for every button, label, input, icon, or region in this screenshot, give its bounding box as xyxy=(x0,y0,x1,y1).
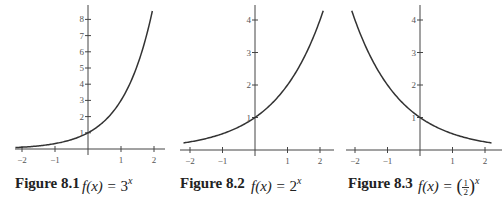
y-tick-label: 4 xyxy=(412,15,417,25)
y-tick-label: 2 xyxy=(412,80,417,90)
formula-prefix: f(x) = xyxy=(418,178,456,194)
x-tick-label: 2 xyxy=(483,156,488,166)
x-tick-label: 1 xyxy=(285,156,290,166)
figure-8-2: −2−1121234 Figure 8.2 f(x) = 2x xyxy=(168,0,336,200)
formula-exponent: x xyxy=(297,175,301,186)
x-tick-label: 2 xyxy=(318,156,323,166)
formula: f(x) = 2x xyxy=(251,175,301,195)
y-tick-label: 3 xyxy=(412,48,417,58)
y-tick-label: 3 xyxy=(247,48,252,58)
x-tick-label: 2 xyxy=(152,155,157,165)
chart-2-pow-x: −2−1121234 xyxy=(168,0,336,175)
y-tick-label: 2 xyxy=(247,80,252,90)
figure-8-3: −2−1121234 Figure 8.3 f(x) = (12)x xyxy=(336,0,504,200)
formula-base: 3 xyxy=(120,178,128,194)
x-tick-label: −2 xyxy=(17,155,27,165)
formula: f(x) = 3x xyxy=(82,175,132,195)
formula-base: 2 xyxy=(289,178,297,194)
figure-label: Figure 8.3 xyxy=(348,175,413,192)
figure-8-1: −2−11212345678 Figure 8.1 f(x) = 3x xyxy=(0,0,168,200)
x-tick-label: −1 xyxy=(383,156,393,166)
formula-exponent: x xyxy=(475,175,479,186)
function-curve xyxy=(352,11,492,143)
y-tick-label: 4 xyxy=(247,15,252,25)
function-curve xyxy=(184,11,324,143)
formula: f(x) = (12)x xyxy=(418,175,479,197)
y-tick-label: 8 xyxy=(80,14,85,24)
formula-exponent: x xyxy=(128,175,132,186)
formula-prefix: f(x) = xyxy=(82,178,120,194)
figure-label: Figure 8.2 xyxy=(180,175,245,192)
y-tick-label: 2 xyxy=(80,112,85,122)
x-tick-label: 1 xyxy=(450,156,455,166)
x-tick-label: −2 xyxy=(350,156,360,166)
chart-half-pow-x: −2−1121234 xyxy=(336,0,504,175)
x-tick-label: 1 xyxy=(119,155,124,165)
formula-prefix: f(x) = xyxy=(251,178,289,194)
x-tick-label: −1 xyxy=(218,156,228,166)
y-tick-label: 4 xyxy=(80,79,85,89)
figure-label: Figure 8.1 xyxy=(15,175,80,192)
chart-3-pow-x: −2−11212345678 xyxy=(0,0,168,175)
y-tick-label: 3 xyxy=(80,95,85,105)
x-tick-label: −1 xyxy=(50,155,60,165)
y-tick-label: 5 xyxy=(80,63,85,73)
x-tick-label: −2 xyxy=(185,156,195,166)
y-tick-label: 6 xyxy=(80,47,85,57)
y-tick-label: 7 xyxy=(80,31,85,41)
